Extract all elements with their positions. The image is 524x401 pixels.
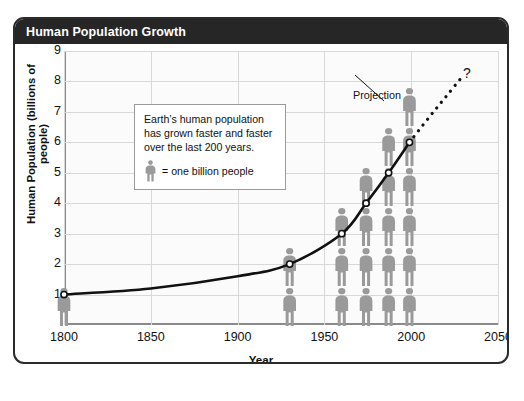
legend-row: = one billion people bbox=[144, 160, 277, 182]
y-tick-label: 3 bbox=[39, 226, 61, 240]
data-point-marker bbox=[61, 291, 67, 297]
y-tick-label: 6 bbox=[39, 134, 61, 148]
gridline-v bbox=[498, 51, 499, 325]
pictogram-person bbox=[403, 208, 416, 246]
legend-label: = one billion people bbox=[162, 165, 254, 177]
chart-title: Human Population Growth bbox=[15, 25, 186, 39]
pictogram-person bbox=[360, 208, 373, 246]
callout-box: Earth’s human population has grown faste… bbox=[134, 104, 286, 190]
x-tick-label: 1900 bbox=[208, 330, 268, 344]
plot-area: Earth’s human population has grown faste… bbox=[64, 51, 498, 325]
pictogram-person bbox=[335, 288, 348, 326]
y-tick-label: 4 bbox=[39, 195, 61, 209]
projection-curve bbox=[409, 75, 463, 142]
pictogram-person bbox=[403, 88, 416, 126]
data-point-marker bbox=[287, 261, 293, 267]
pictogram-person bbox=[403, 248, 416, 286]
pictogram-person bbox=[403, 168, 416, 206]
pictogram-person bbox=[382, 288, 395, 326]
y-tick-label: 9 bbox=[39, 43, 61, 57]
y-axis-ticks: 123456789 bbox=[39, 44, 61, 364]
pictogram-person bbox=[335, 248, 348, 286]
data-point-marker bbox=[406, 139, 412, 145]
x-tick-label: 1950 bbox=[294, 330, 354, 344]
pictogram-person bbox=[382, 208, 395, 246]
pictogram-person bbox=[360, 248, 373, 286]
x-axis-title: Year bbox=[15, 353, 507, 364]
data-point-marker bbox=[386, 170, 392, 176]
callout-line-1: Earth’s human population bbox=[144, 112, 277, 126]
chart-body: Human Population (billions of people) 12… bbox=[15, 44, 507, 364]
pictogram-person bbox=[360, 288, 373, 326]
pictogram-person bbox=[382, 248, 395, 286]
y-tick-label: 8 bbox=[39, 73, 61, 87]
chart-card: Human Population Growth Human Population… bbox=[13, 17, 509, 364]
pictogram-person bbox=[283, 288, 296, 326]
y-tick-label: 2 bbox=[39, 256, 61, 270]
person-icon bbox=[144, 160, 157, 182]
data-point-marker bbox=[339, 231, 345, 237]
callout-line-3: over the last 200 years. bbox=[144, 140, 277, 154]
y-tick-label: 5 bbox=[39, 165, 61, 179]
y-tick-label: 7 bbox=[39, 104, 61, 118]
chart-title-bar: Human Population Growth bbox=[15, 19, 507, 44]
y-tick-label: 1 bbox=[39, 287, 61, 301]
x-tick-label: 2000 bbox=[381, 330, 441, 344]
x-tick-label: 1800 bbox=[34, 330, 94, 344]
pictogram-person bbox=[403, 288, 416, 326]
projection-label: Projection bbox=[353, 89, 401, 101]
x-tick-label: 1850 bbox=[121, 330, 181, 344]
pictogram-person bbox=[335, 208, 348, 246]
x-tick-label: 2050 bbox=[468, 330, 509, 344]
pictogram-person bbox=[382, 128, 395, 166]
question-mark-label: ? bbox=[463, 65, 471, 81]
data-point-marker bbox=[363, 200, 369, 206]
callout-line-2: has grown faster and faster bbox=[144, 126, 277, 140]
